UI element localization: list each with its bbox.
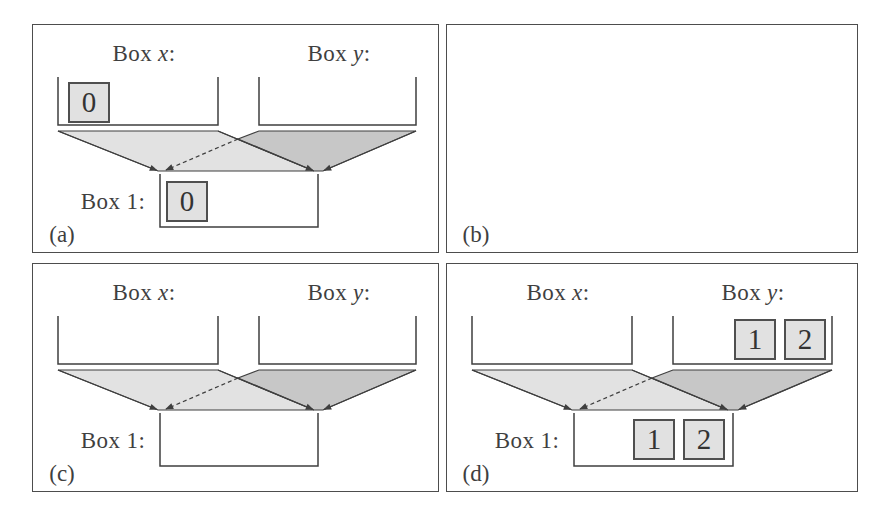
panel-letter-c: (c)	[49, 461, 75, 487]
token: 2	[784, 319, 826, 360]
box-x-label: Boxx:	[113, 280, 176, 306]
box-y-label: Boxy:	[308, 280, 371, 306]
box-1-container	[160, 413, 318, 466]
box-y-label: Boxy:	[722, 280, 785, 306]
box-x-tokens: 0	[68, 82, 110, 123]
box-x-label: Boxx:	[113, 41, 176, 67]
box-x-container	[58, 316, 218, 364]
figure-box-merge-diagram: Boxx: Boxy: Box 1: 0 0 (a) (b) Boxx:	[0, 0, 886, 512]
funnel-diagram	[33, 25, 440, 254]
box-1-label: Box 1:	[495, 428, 559, 454]
box-1-tokens: 12	[633, 419, 725, 460]
funnel-diagram	[33, 264, 440, 493]
box-x-container	[472, 316, 632, 364]
panel-letter-a: (a)	[49, 222, 75, 248]
box-1-tokens: 0	[166, 181, 208, 222]
box-y-tokens: 12	[734, 319, 826, 360]
panel-b: (b)	[446, 24, 858, 253]
panel-d: Boxx: Boxy: Box 1: 12 12 (d)	[446, 263, 858, 492]
box-y-label: Boxy:	[308, 41, 371, 67]
panel-c: Boxx: Boxy: Box 1: (c)	[32, 263, 439, 492]
token: 0	[166, 181, 208, 222]
token: 0	[68, 82, 110, 123]
token: 1	[734, 319, 776, 360]
panel-a: Boxx: Boxy: Box 1: 0 0 (a)	[32, 24, 439, 253]
box-1-label: Box 1:	[81, 189, 145, 215]
box-1-label: Box 1:	[81, 428, 145, 454]
token: 2	[683, 419, 725, 460]
box-x-label: Boxx:	[527, 280, 590, 306]
token: 1	[633, 419, 675, 460]
panel-letter-b: (b)	[463, 222, 490, 248]
panel-letter-d: (d)	[463, 461, 490, 487]
box-y-container	[259, 77, 416, 125]
box-y-container	[259, 316, 416, 364]
